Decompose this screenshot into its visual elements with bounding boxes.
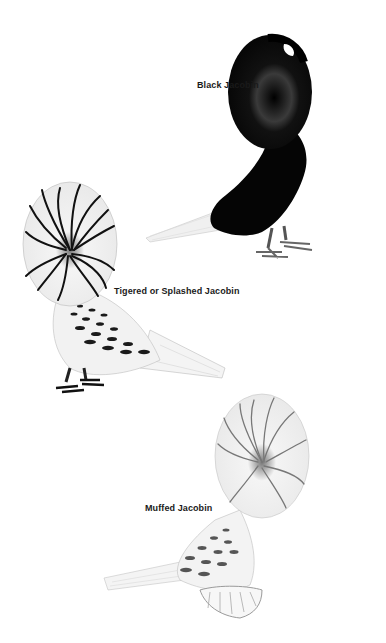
tigered-jacobin-label: Tigered or Splashed Jacobin bbox=[114, 286, 240, 296]
muffed-jacobin-label: Muffed Jacobin bbox=[145, 503, 212, 513]
pigeon-illustrations bbox=[0, 0, 386, 643]
illustration-plate: Black Jacobin Tigered or Splashed Jacobi… bbox=[0, 0, 386, 643]
black-jacobin-drawing bbox=[146, 35, 312, 258]
black-jacobin-label: Black Jacobin bbox=[197, 80, 259, 90]
